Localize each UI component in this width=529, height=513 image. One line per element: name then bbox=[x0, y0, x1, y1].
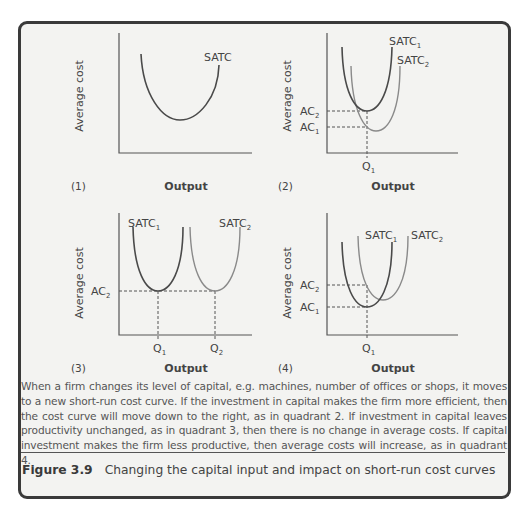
satc2-curve bbox=[358, 236, 408, 300]
q1-label: Q1 bbox=[362, 342, 375, 357]
y-axis-label: Average cost bbox=[281, 247, 294, 319]
panel-number: (1) bbox=[71, 180, 86, 192]
q1-label: Q1 bbox=[362, 160, 375, 175]
axes bbox=[119, 213, 252, 335]
x-axis-label: Output bbox=[371, 180, 414, 193]
ac2-label: AC2 bbox=[300, 105, 319, 120]
satc2-label: SATC2 bbox=[219, 217, 251, 232]
x-axis-label: Output bbox=[371, 362, 414, 375]
satc2-curve bbox=[351, 66, 400, 131]
satc2-label: SATC2 bbox=[411, 229, 443, 244]
x-axis-label: Output bbox=[164, 180, 207, 193]
satc1-label: SATC1 bbox=[365, 229, 397, 244]
panel-number: (4) bbox=[278, 362, 293, 374]
panel-3: Average cost SATC1 SATC2 AC2 Q1 Q2 (3) O… bbox=[71, 213, 252, 375]
figure-number: Figure 3.9 bbox=[22, 463, 93, 477]
caption-divider bbox=[21, 452, 505, 453]
figure-title: Changing the capital input and impact on… bbox=[105, 463, 496, 477]
panel-4: Average cost SATC1 SATC2 AC2 AC1 Q1 (4) … bbox=[278, 213, 458, 375]
y-axis-label: Average cost bbox=[73, 247, 86, 319]
satc2-label: SATC2 bbox=[397, 54, 429, 69]
figure-description: When a firm changes its level of capital… bbox=[21, 379, 507, 468]
q1-label: Q1 bbox=[153, 342, 166, 357]
satc1-curve bbox=[133, 227, 183, 291]
q2-label: Q2 bbox=[210, 342, 223, 357]
y-axis-label: Average cost bbox=[281, 60, 294, 132]
panel-number: (3) bbox=[71, 362, 86, 374]
satc-label: SATC bbox=[204, 51, 232, 64]
y-axis-label: Average cost bbox=[73, 60, 86, 132]
x-axis-label: Output bbox=[164, 362, 207, 375]
ac2-label: AC2 bbox=[91, 285, 110, 300]
satc1-label: SATC1 bbox=[128, 217, 160, 232]
satc2-curve bbox=[190, 227, 240, 291]
ac1-label: AC1 bbox=[300, 121, 319, 136]
panel-number: (2) bbox=[278, 180, 293, 192]
satc1-label: SATC1 bbox=[389, 35, 421, 50]
axes bbox=[119, 33, 252, 153]
satc1-curve bbox=[342, 47, 392, 111]
panel-2: Average cost SATC1 SATC2 AC2 AC1 Q1 (2) … bbox=[278, 33, 458, 193]
ac1-label: AC1 bbox=[300, 301, 319, 316]
figure-caption: Figure 3.9Changing the capital input and… bbox=[22, 463, 495, 477]
ac2-label: AC2 bbox=[300, 279, 319, 294]
panel-1: Average cost SATC (1) Output bbox=[71, 33, 252, 193]
